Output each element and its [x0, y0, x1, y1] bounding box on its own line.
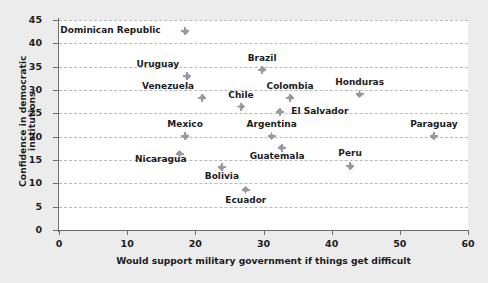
data-point — [183, 29, 188, 34]
data-point-label: Venezuela — [142, 82, 194, 91]
x-tick-label: 40 — [312, 239, 352, 249]
data-point-label: Honduras — [335, 78, 384, 87]
gridline — [59, 113, 468, 114]
y-axis-line — [58, 18, 59, 232]
data-point — [185, 74, 190, 79]
y-axis-title: Confidence in democratic institutions — [18, 26, 36, 216]
scatter-plot-figure: 0510152025303540450102030405060 Dominica… — [0, 0, 488, 283]
data-point-label: Ecuador — [225, 196, 266, 205]
gridline — [59, 90, 468, 91]
data-point-label: Paraguay — [410, 120, 457, 129]
data-point-label: Uruguay — [136, 60, 179, 69]
x-tick-label: 10 — [107, 239, 147, 249]
x-axis-line — [58, 230, 469, 231]
data-point-label: Peru — [338, 149, 362, 158]
gridline — [59, 207, 468, 208]
data-point — [357, 92, 362, 97]
gridline — [59, 20, 468, 21]
data-point-label: Nicaragua — [135, 155, 186, 164]
data-point-label: Argentina — [247, 120, 297, 129]
data-point-label: Colombia — [267, 82, 314, 91]
x-axis-title: Would support military government if thi… — [59, 256, 468, 265]
data-point — [269, 134, 274, 139]
y-tick-label: 0 — [0, 225, 42, 235]
data-point-label: Brazil — [248, 54, 277, 63]
data-point — [219, 165, 224, 170]
data-point-label: Mexico — [167, 120, 202, 129]
data-point-label: Chile — [228, 91, 253, 100]
data-point-label: Guatemala — [250, 152, 305, 161]
gridline — [59, 137, 468, 138]
gridline — [59, 183, 468, 184]
gridline — [59, 43, 468, 44]
data-point — [348, 164, 353, 169]
data-point-label: El Salvador — [291, 107, 348, 116]
x-tick-label: 50 — [380, 239, 420, 249]
x-tick-label: 20 — [175, 239, 215, 249]
data-point-label: Dominican Republic — [60, 26, 160, 35]
y-tick-label: 45 — [0, 15, 42, 25]
data-point — [183, 134, 188, 139]
x-tick-label: 0 — [39, 239, 79, 249]
x-tick-label: 60 — [448, 239, 488, 249]
data-point-label: Bolivia — [205, 172, 239, 181]
data-point — [239, 104, 244, 109]
x-tick-label: 30 — [244, 239, 284, 249]
